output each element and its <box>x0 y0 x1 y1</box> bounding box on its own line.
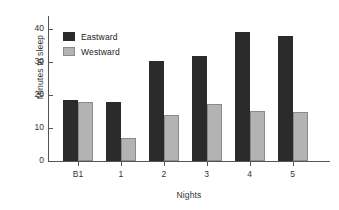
bar-eastward-3 <box>192 56 207 161</box>
x-tick-label: 4 <box>235 170 265 179</box>
bar-group <box>278 16 308 161</box>
bar-chart: Minutes to sleep 010203040 Eastward West… <box>0 0 339 210</box>
y-tick-label: 20 <box>22 90 44 99</box>
x-tick-label: 2 <box>149 170 179 179</box>
y-tick-label: 0 <box>22 156 44 165</box>
bar-eastward-4 <box>235 32 250 161</box>
bar-eastward-2 <box>149 61 164 162</box>
x-tick-mark <box>250 161 251 166</box>
y-tick-mark <box>48 161 53 162</box>
bar-westward-3 <box>207 104 222 161</box>
bar-group <box>63 16 93 161</box>
plot-area <box>49 16 330 161</box>
bar-westward-1 <box>121 138 136 161</box>
bar-group <box>149 16 179 161</box>
x-tick-label: 5 <box>278 170 308 179</box>
x-tick-mark <box>78 161 79 166</box>
y-tick-label: 10 <box>22 123 44 132</box>
bar-eastward-5 <box>278 36 293 161</box>
bar-group <box>106 16 136 161</box>
bar-group <box>235 16 265 161</box>
bar-westward-5 <box>293 112 308 161</box>
bar-westward-b1 <box>78 102 93 161</box>
x-axis-line <box>48 161 330 162</box>
x-tick-mark <box>164 161 165 166</box>
x-tick-label: 3 <box>192 170 222 179</box>
x-tick-mark <box>121 161 122 166</box>
x-tick-mark <box>293 161 294 166</box>
x-tick-mark <box>207 161 208 166</box>
x-axis-label: Nights <box>48 190 330 200</box>
x-tick-label: B1 <box>63 170 93 179</box>
bar-westward-4 <box>250 111 265 161</box>
y-tick-label: 40 <box>22 24 44 33</box>
bar-westward-2 <box>164 115 179 161</box>
bar-eastward-b1 <box>63 100 78 161</box>
bar-eastward-1 <box>106 102 121 161</box>
x-tick-label: 1 <box>106 170 136 179</box>
bar-group <box>192 16 222 161</box>
y-tick-label: 30 <box>22 57 44 66</box>
